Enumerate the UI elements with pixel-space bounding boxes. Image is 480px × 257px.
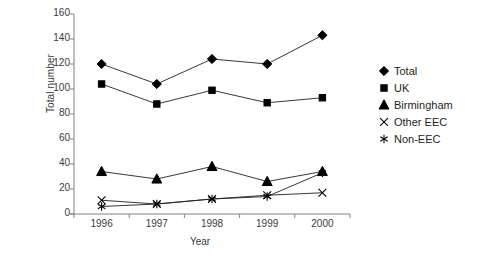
chart-figure: Total number 020406080100120140160 19961… bbox=[0, 0, 480, 257]
marker-square bbox=[264, 100, 270, 106]
series-birmingham bbox=[97, 161, 328, 185]
marker-diamond bbox=[318, 31, 327, 40]
legend-label: Total bbox=[392, 65, 417, 77]
x-axis-tick-label: 1998 bbox=[189, 218, 235, 229]
marker-diamond bbox=[152, 79, 161, 88]
chart-legend: TotalUKBirminghamOther EECNon-EEC bbox=[376, 62, 453, 147]
marker-square bbox=[209, 87, 215, 93]
x-axis-tick-labels: 19961997199819992000 bbox=[74, 216, 350, 232]
legend-item-other-eec[interactable]: Other EEC bbox=[376, 113, 453, 130]
series-uk bbox=[98, 81, 325, 107]
x-axis-tick-label: 1999 bbox=[244, 218, 290, 229]
legend-marker-asterisk-icon bbox=[376, 131, 392, 147]
marker-diamond bbox=[379, 66, 388, 75]
marker-diamond bbox=[263, 59, 272, 68]
legend-item-total[interactable]: Total bbox=[376, 62, 453, 79]
marker-triangle bbox=[97, 166, 107, 175]
y-axis-tick-label: 0 bbox=[40, 207, 70, 218]
legend-item-uk[interactable]: UK bbox=[376, 79, 453, 96]
legend-item-birmingham[interactable]: Birmingham bbox=[376, 96, 453, 113]
x-axis-title: Year bbox=[0, 236, 400, 247]
marker-square bbox=[319, 95, 325, 101]
chart-canvas bbox=[74, 14, 350, 214]
y-axis-tick-labels: 020406080100120140160 bbox=[36, 14, 70, 214]
marker-diamond bbox=[97, 59, 106, 68]
y-axis-tick-label: 160 bbox=[40, 7, 70, 18]
series-total bbox=[97, 31, 327, 89]
marker-square bbox=[154, 101, 160, 107]
y-axis-tick-label: 80 bbox=[40, 107, 70, 118]
legend-label: Birmingham bbox=[392, 99, 453, 111]
y-axis-tick-label: 20 bbox=[40, 182, 70, 193]
legend-label: Non-EEC bbox=[392, 133, 440, 145]
legend-marker-square-icon bbox=[376, 80, 392, 96]
marker-diamond bbox=[207, 54, 216, 63]
legend-label: UK bbox=[392, 82, 409, 94]
marker-triangle bbox=[207, 161, 217, 170]
series-non-eec bbox=[98, 168, 326, 210]
legend-label: Other EEC bbox=[392, 116, 447, 128]
x-axis-tick-label: 1996 bbox=[79, 218, 125, 229]
legend-marker-cross-icon bbox=[376, 114, 392, 130]
marker-triangle bbox=[379, 99, 389, 108]
plot-area bbox=[74, 14, 350, 214]
y-axis-tick-label: 40 bbox=[40, 157, 70, 168]
legend-marker-diamond-icon bbox=[376, 63, 392, 79]
y-axis-tick-label: 100 bbox=[40, 82, 70, 93]
y-axis-tick-label: 120 bbox=[40, 57, 70, 68]
marker-square bbox=[381, 84, 387, 90]
y-axis-tick-label: 140 bbox=[40, 32, 70, 43]
x-axis-tick-label: 1997 bbox=[134, 218, 180, 229]
legend-item-non-eec[interactable]: Non-EEC bbox=[376, 130, 453, 147]
legend-marker-triangle-icon bbox=[376, 97, 392, 113]
marker-square bbox=[98, 81, 104, 87]
y-axis-tick-label: 60 bbox=[40, 132, 70, 143]
x-axis-tick-label: 2000 bbox=[299, 218, 345, 229]
